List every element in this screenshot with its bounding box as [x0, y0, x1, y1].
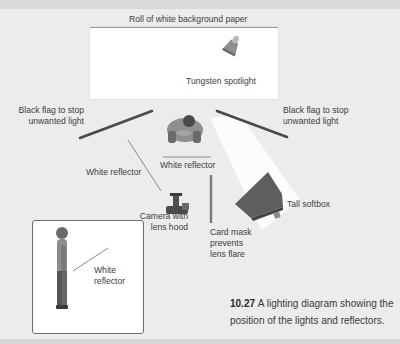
side-view-inset: White reflector [32, 220, 144, 334]
black-flag-left [80, 111, 152, 138]
label-spotlight: Tungsten spotlight [186, 76, 256, 87]
background-paper-roll [90, 27, 278, 99]
label-card-mask-line3: lens flare [210, 249, 252, 260]
label-reflector-center: White reflector [160, 160, 215, 171]
white-reflector-left [128, 140, 161, 191]
label-flag-left-line1: Black flag to stop [14, 105, 84, 116]
label-flag-right: Black flag to stop unwanted light [283, 105, 348, 127]
label-card-mask-line1: Card mask [210, 227, 252, 238]
subject-topdown-icon [167, 115, 203, 143]
label-flag-left: Black flag to stop unwanted light [14, 105, 84, 127]
label-camera-line1: Camera with [138, 211, 188, 222]
figure-caption: 10.27 A lighting diagram showing the pos… [230, 295, 393, 329]
label-flag-left-line2: unwanted light [14, 116, 84, 127]
caption-line2: position of the lights and reflectors. [230, 312, 393, 329]
label-reflector-left: White reflector [86, 167, 141, 178]
label-flag-right-line2: unwanted light [283, 116, 348, 127]
caption-line1: 10.27 A lighting diagram showing the [230, 295, 393, 312]
label-camera: Camera with lens hood [138, 211, 188, 233]
label-camera-line2: lens hood [138, 222, 188, 233]
label-inset-reflector-line1: White [94, 265, 125, 276]
label-flag-right-line1: Black flag to stop [283, 105, 348, 116]
label-inset-reflector-line2: reflector [94, 276, 125, 287]
bottom-page-strip [0, 339, 400, 344]
label-inset-reflector: White reflector [94, 265, 125, 287]
caption-text-1: A lighting diagram showing the [258, 298, 394, 309]
label-background-paper: Roll of white background paper [129, 14, 247, 25]
figure-number: 10.27 [230, 298, 255, 309]
subject-side-icon [33, 221, 143, 333]
label-card-mask-line2: prevents [210, 238, 252, 249]
label-card-mask: Card mask prevents lens flare [210, 227, 252, 260]
label-softbox: Tall softbox [287, 199, 330, 210]
